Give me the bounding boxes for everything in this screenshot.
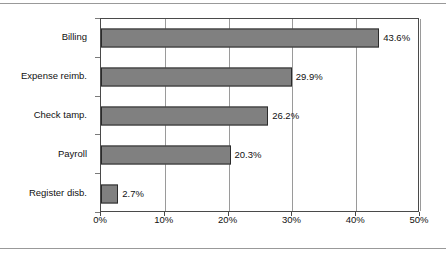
y-axis-tick [95,18,100,19]
x-axis-tick [164,212,165,216]
chart-figure: BillingExpense reimb.Check tamp.PayrollR… [0,0,446,253]
bar-value-label: 20.3% [231,150,262,160]
bar-value-label: 43.6% [379,34,410,44]
y-axis-label: Register disb. [29,188,87,198]
x-axis-label: 40% [346,215,365,225]
top-divider-rule [0,3,446,4]
y-axis-category-labels: BillingExpense reimb.Check tamp.PayrollR… [0,18,95,212]
x-axis-tick [228,212,229,216]
x-axis-label: 20% [218,215,237,225]
x-axis-label: 0% [93,215,107,225]
bar-value-label: 29.9% [292,72,323,82]
y-axis-tick [95,134,100,135]
gridline-50 [420,19,421,211]
x-axis-tick [291,212,292,216]
y-axis-tick [95,57,100,58]
bar-row: 43.6% [101,19,418,58]
y-axis-label: Payroll [58,149,87,159]
bar[interactable] [101,68,292,87]
bar-row: 26.2% [101,97,418,136]
bar-value-label: 2.7% [118,189,144,199]
bar-row: 29.9% [101,58,418,97]
y-axis-label: Billing [62,33,87,43]
y-axis-tick [95,96,100,97]
plot-area: 43.6%29.9%26.2%20.3%2.7% [100,18,419,212]
bar-row: 20.3% [101,135,418,174]
y-axis-label: Check tamp. [34,110,87,120]
x-axis-tick [355,212,356,216]
bottom-divider-rule [0,248,446,249]
x-axis-label: 50% [409,215,428,225]
bar[interactable] [101,145,231,164]
bar[interactable] [101,29,379,48]
bar-row: 2.7% [101,174,418,213]
bar-value-label: 26.2% [268,111,299,121]
x-axis-label: 30% [282,215,301,225]
bar[interactable] [101,184,118,203]
y-axis-tick [95,173,100,174]
x-axis-tick-labels: 0%10%20%30%40%50% [100,215,419,235]
x-axis-tick [100,212,101,216]
bar[interactable] [101,106,268,125]
x-axis-label: 10% [154,215,173,225]
y-axis-label: Expense reimb. [21,71,87,81]
x-axis-tick [419,212,420,216]
